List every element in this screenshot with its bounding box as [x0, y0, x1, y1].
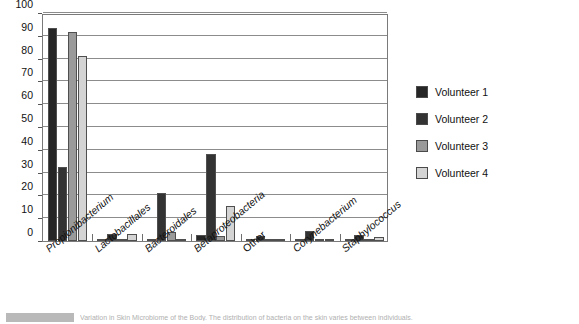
legend-label: Volunteer 1 [435, 86, 488, 98]
y-tick-label-30: 30 [21, 159, 33, 169]
category-tick [142, 234, 143, 241]
figure-bar-chart: 1009080706050403020100 Propionibacterium… [0, 0, 579, 324]
legend-label: Volunteer 2 [435, 113, 488, 125]
y-tick-label-60: 60 [21, 90, 33, 100]
bar [265, 239, 274, 241]
legend-swatch-icon [416, 113, 428, 125]
bar [127, 234, 136, 241]
legend-swatch-icon [416, 140, 428, 152]
legend-item: Volunteer 2 [416, 105, 566, 132]
caption-text: Variation in Skin Microbiome of the Body… [80, 314, 413, 321]
y-axis: 1009080706050403020100 [0, 14, 38, 242]
category-tick [191, 234, 192, 241]
y-tick-label-10: 10 [21, 204, 33, 214]
chart-legend: Volunteer 1Volunteer 2Volunteer 3Volunte… [416, 78, 566, 186]
x-axis: PropionibacteriumLactobacillalesBacteroi… [0, 243, 579, 305]
bar [117, 239, 126, 241]
bar [315, 239, 324, 241]
bar [68, 32, 77, 241]
legend-swatch-icon [416, 86, 428, 98]
bar [325, 239, 334, 241]
bar [48, 28, 57, 241]
y-tick-label-50: 50 [21, 113, 33, 123]
figure-caption: Variation in Skin Microbiome of the Body… [0, 311, 579, 324]
category-tick [92, 234, 93, 241]
y-tick-label-90: 90 [21, 22, 33, 32]
legend-item: Volunteer 1 [416, 78, 566, 105]
legend-item: Volunteer 3 [416, 132, 566, 159]
y-tick-label-0: 0 [27, 227, 33, 237]
legend-item: Volunteer 4 [416, 159, 566, 186]
y-tick-label-20: 20 [21, 181, 33, 191]
y-tick-label-100: 100 [15, 0, 33, 9]
y-tick-label-70: 70 [21, 67, 33, 77]
category-tick [340, 234, 341, 241]
legend-swatch-icon [416, 167, 428, 179]
bar [275, 239, 284, 241]
gridline-100 [43, 12, 387, 13]
bar [176, 239, 185, 241]
legend-label: Volunteer 3 [435, 140, 488, 152]
bar [374, 237, 383, 241]
caption-tag-box [6, 313, 74, 322]
legend-label: Volunteer 4 [435, 167, 488, 179]
category-tick [290, 234, 291, 241]
y-tick-label-80: 80 [21, 45, 33, 55]
bar [364, 239, 373, 241]
y-tick-label-40: 40 [21, 136, 33, 146]
category-tick [241, 234, 242, 241]
